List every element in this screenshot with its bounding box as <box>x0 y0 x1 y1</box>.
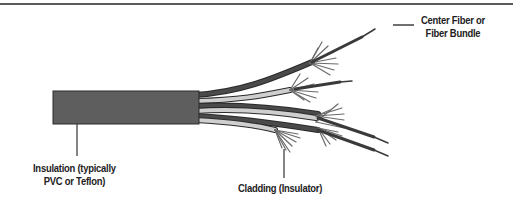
cladding-label: Cladding (Insulator) <box>238 182 322 195</box>
insulation-label: Insulation (typically PVC or Teflon) <box>33 162 116 188</box>
center-fiber-label: Center Fiber or Fiber Bundle <box>421 14 485 40</box>
center-fibers <box>295 29 388 156</box>
insulation-label-line2: PVC or Teflon) <box>33 175 116 188</box>
cladding-label-line1: Cladding (Insulator) <box>238 182 322 195</box>
center-fiber-label-line1: Center Fiber or <box>421 14 485 27</box>
insulation-label-line1: Insulation (typically <box>33 162 116 175</box>
diagram-canvas: Insulation (typically PVC or Teflon) Cla… <box>0 0 513 220</box>
center-fiber-label-line2: Fiber Bundle <box>421 27 485 40</box>
outer-jacket <box>53 91 199 124</box>
